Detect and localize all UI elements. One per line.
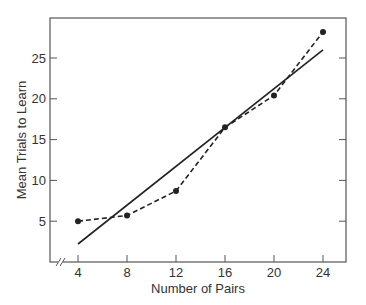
chart: 510152025 4812162024 Number of Pairs Mea… [0,0,366,305]
x-axis-ticks: 4812162024 [74,255,330,280]
y-tick-label: 20 [32,91,46,106]
series-group [75,29,326,244]
data-point-marker [124,212,130,218]
data-point-marker [173,188,179,194]
x-tick-label: 16 [218,265,232,280]
y-tick-label: 25 [32,51,46,66]
x-tick-label: 24 [316,265,330,280]
y-axis-label: Mean Trials to Learn [14,81,29,200]
y-tick-label: 5 [39,214,46,229]
observed-line [78,32,323,221]
x-tick-label: 4 [74,265,81,280]
data-point-marker [320,29,326,35]
x-tick-label: 12 [169,265,183,280]
x-tick-label: 8 [123,265,130,280]
x-tick-label: 20 [267,265,281,280]
y-tick-label: 10 [32,173,46,188]
y-axis-ticks: 510152025 [32,51,346,229]
data-point-marker [75,218,81,224]
y-tick-label: 15 [32,132,46,147]
plot-border [50,18,346,262]
data-point-marker [271,93,277,99]
plot-frame [50,18,346,262]
x-axis-label: Number of Pairs [151,281,245,296]
fit-line [78,50,323,244]
